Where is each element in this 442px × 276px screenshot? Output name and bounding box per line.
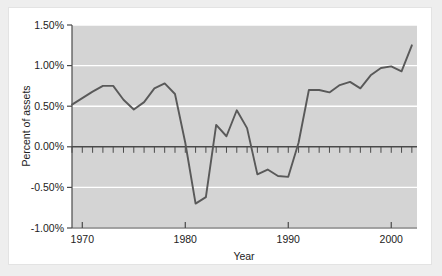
y-tick-label: 0.00% [34, 140, 64, 152]
plot-area-background [72, 25, 417, 228]
x-axis-title: Year [233, 250, 255, 262]
y-tick-label: 0.50% [34, 100, 64, 112]
x-tick-labels: 1970198019902000 [71, 233, 403, 245]
line-chart: 1.50%1.00%0.50%0.00%-0.50%-1.00% 1970198… [0, 0, 442, 276]
y-tick-label: 1.50% [34, 19, 64, 31]
y-axis [67, 25, 72, 228]
x-tick-label: 1990 [277, 233, 301, 245]
y-tick-label: 1.00% [34, 59, 64, 71]
figure-container: 1.50%1.00%0.50%0.00%-0.50%-1.00% 1970198… [0, 0, 442, 276]
x-tick-label: 1980 [174, 233, 198, 245]
y-tick-labels: 1.50%1.00%0.50%0.00%-0.50%-1.00% [31, 19, 64, 234]
x-tick-label: 1970 [71, 233, 95, 245]
y-tick-label: -1.00% [31, 222, 64, 234]
y-tick-label: -0.50% [31, 181, 64, 193]
y-axis-title: Percent of assets [20, 85, 32, 166]
x-tick-label: 2000 [380, 233, 404, 245]
